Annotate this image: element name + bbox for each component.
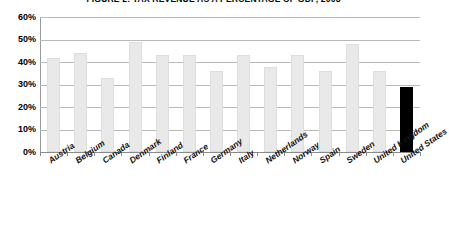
bar (129, 42, 142, 152)
gridline (40, 17, 420, 18)
bar (183, 55, 196, 152)
y-axis-tick-label: 0% (2, 148, 36, 157)
gridline (40, 107, 420, 108)
x-axis-tick (257, 152, 258, 156)
y-axis-tick-labels: 60%50%40%30%20%10%0% (0, 17, 36, 152)
bar (74, 53, 87, 152)
x-axis-tick (40, 152, 41, 156)
gridline (40, 130, 420, 131)
gridline (40, 85, 420, 86)
chart-title: FIGURE 2: TAX REVENUE AS A PERCENTAGE OF… (0, 0, 427, 4)
y-axis-tick-label: 30% (2, 80, 36, 89)
plot-area (40, 17, 420, 152)
bar (319, 71, 332, 152)
y-axis-tick-label: 50% (2, 35, 36, 44)
y-axis-tick-label: 10% (2, 125, 36, 134)
y-axis-tick-label: 20% (2, 103, 36, 112)
gridline (40, 40, 420, 41)
gridline (40, 62, 420, 63)
bar (210, 71, 223, 152)
bar (47, 58, 60, 153)
bar (346, 44, 359, 152)
bar (373, 71, 386, 152)
bar (264, 67, 277, 153)
y-axis-tick-label: 60% (2, 13, 36, 22)
y-axis-tick-label: 40% (2, 58, 36, 67)
